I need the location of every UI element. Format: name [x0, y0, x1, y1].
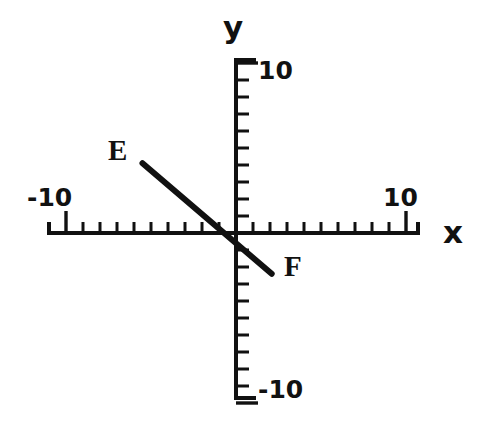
- x-axis-min-tick-label: -10: [27, 185, 72, 210]
- x-axis-max-tick-label: 10: [383, 185, 418, 210]
- x-axis-group: [47, 211, 420, 234]
- y-axis-max-tick-label: 10: [258, 58, 293, 83]
- coordinate-plane-figure: y x 10 -10 -10 10 E F: [0, 0, 485, 429]
- x-axis-title: x: [443, 217, 463, 248]
- y-axis-min-tick-label: -10: [258, 377, 303, 402]
- y-axis-title: y: [223, 12, 243, 43]
- plot-canvas: [0, 0, 485, 429]
- segment-ef-group: [143, 163, 272, 273]
- point-label-f: F: [284, 252, 302, 281]
- point-label-e: E: [108, 136, 127, 165]
- y-axis-group: [235, 58, 258, 403]
- line-segment-ef: [143, 163, 272, 273]
